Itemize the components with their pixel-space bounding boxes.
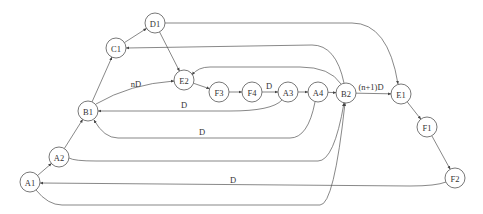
node-f2: F2	[445, 168, 465, 188]
edge-b2-to-c1	[126, 45, 344, 83]
edge-b2-to-e1	[356, 93, 391, 94]
node-label: A3	[283, 88, 293, 98]
node-c1: C1	[106, 38, 126, 58]
edge-e1-to-f1	[407, 102, 421, 119]
node-a1: A1	[20, 172, 40, 192]
edge-c1-to-d1	[124, 28, 146, 42]
node-a3: A3	[278, 82, 298, 102]
node-label: F1	[423, 123, 432, 133]
edge-f2-to-a1	[40, 182, 446, 186]
node-label: B1	[83, 107, 93, 117]
node-e1: E1	[391, 84, 411, 104]
node-e2: E2	[174, 70, 194, 90]
node-b1: B1	[78, 101, 98, 121]
node-label: E2	[179, 76, 188, 86]
edge-label: D	[199, 127, 205, 137]
node-label: A4	[313, 88, 324, 98]
edge-label: D	[181, 100, 187, 110]
node-b2: B2	[336, 83, 356, 103]
node-label: A1	[25, 178, 35, 188]
edge-label: D	[266, 81, 272, 91]
edge-e2-to-f3	[193, 83, 209, 89]
edge-a1-to-a2	[38, 164, 52, 176]
edge-label: D	[230, 175, 236, 185]
graph-diagram: nDD(n+1)DDDD D1C1E2F3F4A3A4B2E1B1F1A2A1F…	[0, 0, 483, 214]
edge-b1-to-c1	[92, 57, 112, 102]
node-f3: F3	[209, 82, 229, 102]
node-label: A2	[54, 153, 64, 163]
edge-d1-to-e2	[160, 32, 180, 71]
node-f4: F4	[242, 82, 262, 102]
edge-label: nD	[131, 79, 141, 89]
node-f1: F1	[417, 117, 437, 137]
node-label: F4	[248, 88, 258, 98]
node-label: D1	[150, 19, 160, 29]
node-d1: D1	[145, 13, 165, 33]
node-label: F2	[451, 174, 460, 184]
edge-label: (n+1)D	[358, 82, 383, 92]
node-label: B2	[341, 89, 351, 99]
node-label: F3	[215, 88, 224, 98]
node-label: C1	[111, 44, 121, 54]
node-a2: A2	[49, 147, 69, 167]
edge-d1-to-e1	[165, 23, 398, 84]
edge-a2-to-b1	[64, 119, 82, 148]
node-a4: A4	[308, 82, 328, 102]
node-label: E1	[396, 90, 405, 100]
edge-f1-to-f2	[432, 136, 450, 169]
